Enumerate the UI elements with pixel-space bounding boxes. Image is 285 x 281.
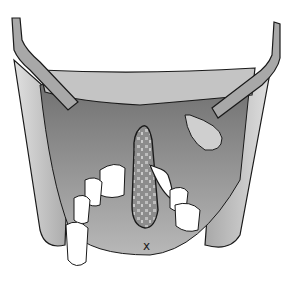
central-incisor-left [100, 164, 125, 197]
diagram-canvas: x [0, 0, 285, 281]
annotation-mark: x [143, 239, 150, 253]
canine-right [175, 203, 200, 231]
alveolar-cleft-illustration: x [0, 0, 285, 281]
canine-left [74, 195, 90, 223]
premolar-left [66, 222, 88, 265]
